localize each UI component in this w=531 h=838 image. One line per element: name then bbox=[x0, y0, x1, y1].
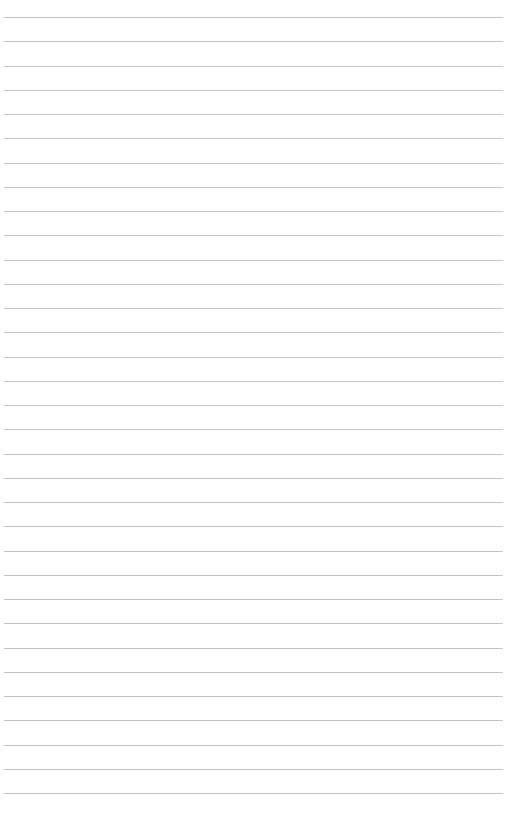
ruled-line bbox=[4, 41, 503, 42]
ruled-line bbox=[4, 332, 503, 333]
ruled-line bbox=[4, 745, 503, 746]
ruled-line bbox=[4, 575, 503, 576]
ruled-line bbox=[4, 17, 503, 18]
ruled-line bbox=[4, 454, 503, 455]
ruled-line bbox=[4, 138, 503, 139]
ruled-line bbox=[4, 648, 503, 649]
ruled-line bbox=[4, 381, 503, 382]
ruled-line bbox=[4, 163, 503, 164]
ruled-line bbox=[4, 793, 503, 794]
ruled-line bbox=[4, 90, 503, 91]
ruled-line bbox=[4, 526, 503, 527]
ruled-line bbox=[4, 696, 503, 697]
ruled-line bbox=[4, 66, 503, 67]
ruled-line bbox=[4, 114, 503, 115]
ruled-line bbox=[4, 187, 503, 188]
lined-page bbox=[0, 0, 531, 838]
ruled-line bbox=[4, 405, 503, 406]
ruled-line bbox=[4, 260, 503, 261]
ruled-line bbox=[4, 623, 503, 624]
ruled-line bbox=[4, 551, 503, 552]
ruled-line bbox=[4, 720, 503, 721]
ruled-line bbox=[4, 599, 503, 600]
ruled-line bbox=[4, 235, 503, 236]
ruled-line bbox=[4, 308, 503, 309]
ruled-line bbox=[4, 211, 503, 212]
ruled-line bbox=[4, 478, 503, 479]
ruled-line bbox=[4, 429, 503, 430]
ruled-line bbox=[4, 502, 503, 503]
ruled-line bbox=[4, 672, 503, 673]
ruled-line bbox=[4, 284, 503, 285]
ruled-line bbox=[4, 357, 503, 358]
ruled-line bbox=[4, 769, 503, 770]
